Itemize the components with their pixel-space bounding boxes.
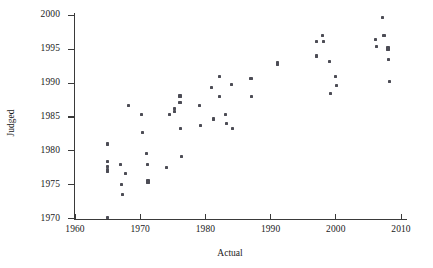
data-point [146,181,149,184]
y-tick-label: 1990 [26,78,60,88]
data-point [212,117,215,120]
data-point [315,40,318,43]
data-point [321,34,324,37]
data-point [173,107,176,110]
data-point [146,179,149,182]
x-axis-line [74,219,407,220]
data-point [199,124,202,127]
data-point [250,95,253,98]
x-tick-label: 2010 [381,225,421,235]
data-point [218,75,221,78]
data-point [179,127,182,130]
data-point [121,193,124,196]
data-point [276,63,279,66]
y-axis-line [74,13,75,220]
data-point [106,160,109,163]
y-tick-mark [68,218,74,219]
data-point [322,40,325,43]
y-tick-label: 2000 [26,10,60,20]
data-point [374,38,377,41]
data-point [334,75,337,78]
y-tick-label: 1980 [26,146,60,156]
data-point [249,77,252,80]
x-tick-label: 1970 [120,225,160,235]
data-point [335,84,338,87]
y-axis-label: Judged [6,93,16,153]
x-tick-label: 2000 [316,225,356,235]
data-point [386,48,389,51]
x-tick-mark [270,214,271,219]
y-tick-mark [68,83,74,84]
data-point [328,60,331,63]
data-point [140,113,143,116]
data-point [178,94,181,97]
data-point [381,16,384,19]
y-tick-mark [68,116,74,117]
data-point [141,131,144,134]
y-tick-mark [68,150,74,151]
data-point [127,104,130,107]
data-point [210,86,213,89]
x-axis-label: Actual [190,248,270,258]
data-point [276,61,279,64]
x-tick-mark [401,214,402,219]
data-point [106,168,109,171]
data-point [315,54,318,57]
x-tick-mark [140,214,141,219]
data-point [106,142,109,145]
data-point [218,95,221,98]
y-tick-mark [68,15,74,16]
data-point [225,122,228,125]
data-point [119,163,122,166]
data-point [198,104,201,107]
data-point [386,46,389,49]
data-point [106,170,109,173]
data-point [382,34,385,37]
data-point [224,113,227,116]
x-tick-mark [335,214,336,219]
x-tick-label: 1960 [55,225,95,235]
data-point [124,172,127,175]
data-point [145,152,148,155]
x-tick-label: 1990 [251,225,291,235]
y-tick-label: 1995 [26,44,60,54]
y-tick-mark [68,184,74,185]
y-tick-mark [68,49,74,50]
data-point [388,80,391,83]
data-point [173,110,176,113]
y-tick-label: 1975 [26,180,60,190]
data-point [168,113,171,116]
y-tick-label: 1970 [26,214,60,224]
data-point [387,58,390,61]
y-tick-label: 1985 [26,112,60,122]
data-point [329,92,332,95]
scatter-plot-figure: 1970197519801985199019952000196019701980… [0,0,433,268]
data-point [106,165,109,168]
data-point [375,45,378,48]
data-point [230,83,233,86]
data-point [178,101,181,104]
data-point [120,183,123,186]
x-tick-mark [205,214,206,219]
data-point [180,155,183,158]
data-point [165,166,168,169]
x-tick-mark [75,214,76,219]
x-tick-label: 1980 [185,225,225,235]
data-point [146,163,149,166]
data-point [231,127,234,130]
